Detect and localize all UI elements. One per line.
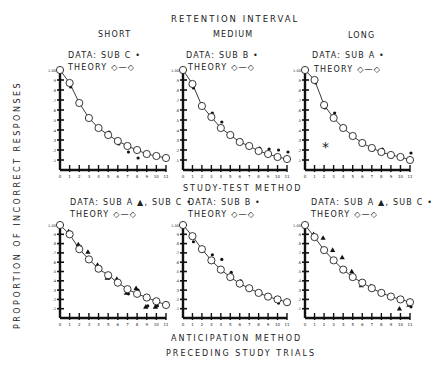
svg-text:10: 10 [154,174,160,179]
data-point-triangle [85,249,90,254]
svg-text:.3: .3 [176,289,179,293]
svg-text:2: 2 [78,322,81,327]
svg-text:11: 11 [284,322,290,327]
svg-text:3: 3 [88,322,91,327]
theory-point [406,299,413,306]
data-point-dot [146,304,149,307]
svg-text:8: 8 [136,322,139,327]
theory-point [264,293,271,300]
svg-text:.4: .4 [298,279,302,283]
data-point-dot [409,151,412,154]
theory-point [76,246,83,253]
svg-text:1: 1 [313,174,316,179]
theory-point [359,279,366,286]
chart-panels: .1.2.3.4.5.6.7.8.91.0001234567891011.1.2… [0,0,435,371]
data-point-dot [286,150,289,153]
svg-text:.1: .1 [176,307,179,311]
theory-point [227,273,234,280]
svg-text:10: 10 [275,322,281,327]
svg-text:9: 9 [145,174,148,179]
theory-point [56,221,63,228]
chart-panel-3: .1.2.3.4.5.6.7.8.91.0001234567891011 [48,221,170,327]
theory-point [217,266,224,273]
svg-text:.6: .6 [53,261,57,265]
svg-text:6: 6 [117,174,120,179]
svg-text:.7: .7 [176,99,179,103]
svg-text:.4: .4 [53,129,57,133]
chart-panel-0: .1.2.3.4.5.6.7.8.91.0001234567891011 [48,66,170,179]
theory-point [311,76,318,83]
svg-text:.2: .2 [176,298,179,302]
svg-text:.7: .7 [53,251,56,255]
svg-text:.2: .2 [53,298,56,302]
svg-text:9: 9 [390,174,393,179]
svg-text:.9: .9 [298,233,302,237]
theory-point [246,142,253,149]
theory-line [60,70,166,158]
svg-text:1: 1 [191,322,194,327]
data-point-triangle [340,255,345,260]
svg-text:3: 3 [210,322,213,327]
svg-text:1.00: 1.00 [293,224,302,228]
svg-text:5: 5 [229,322,232,327]
svg-text:1.00: 1.00 [293,69,302,73]
svg-text:9: 9 [267,174,270,179]
theory-point [236,138,243,145]
svg-text:10: 10 [275,174,281,179]
theory-point [387,293,394,300]
svg-text:3: 3 [332,322,335,327]
theory-line [183,70,287,159]
data-point-dot [211,253,214,256]
theory-point [406,156,413,163]
theory-line [60,225,166,305]
svg-text:7: 7 [248,322,251,327]
theory-point [153,298,160,305]
theory-point [349,273,356,280]
theory-point [264,150,271,157]
svg-text:.2: .2 [298,149,301,153]
svg-text:.8: .8 [298,242,302,246]
theory-point [133,290,140,297]
svg-text:5: 5 [107,322,110,327]
theory-point [387,151,394,158]
svg-text:.1: .1 [176,159,179,163]
theory-point [133,146,140,153]
svg-text:.7: .7 [298,251,301,255]
theory-point [330,257,337,264]
svg-text:.9: .9 [53,233,57,237]
data-point-dot [192,240,195,243]
data-point-dot [136,156,139,159]
svg-text:0: 0 [304,322,307,327]
svg-text:.3: .3 [298,139,301,143]
svg-text:2: 2 [78,174,81,179]
data-point-triangle [397,306,402,311]
svg-text:.8: .8 [176,89,180,93]
theory-point [311,233,318,240]
theory-point [143,150,150,157]
theory-point [114,279,121,286]
svg-text:.3: .3 [298,289,301,293]
svg-text:0: 0 [304,174,307,179]
svg-text:.3: .3 [53,139,56,143]
theory-point [330,114,337,121]
theory-point [274,296,281,303]
svg-text:0: 0 [59,174,62,179]
svg-text:.5: .5 [53,270,56,274]
svg-text:.5: .5 [298,270,301,274]
svg-text:.7: .7 [53,99,56,103]
theory-point [105,272,112,279]
theory-point [143,294,150,301]
svg-text:.4: .4 [298,129,302,133]
svg-text:.9: .9 [298,79,302,83]
svg-text:.5: .5 [53,119,56,123]
svg-text:.1: .1 [53,159,56,163]
svg-text:7: 7 [248,174,251,179]
svg-text:1: 1 [313,322,316,327]
chart-panel-1: .1.2.3.4.5.6.7.8.91.0001234567891011 [171,66,291,179]
svg-text:.9: .9 [53,79,57,83]
theory-point [162,301,169,308]
data-point-dot [220,258,223,261]
asterisk-annotation: * [322,139,329,155]
svg-text:11: 11 [163,322,169,327]
theory-point [198,102,205,109]
